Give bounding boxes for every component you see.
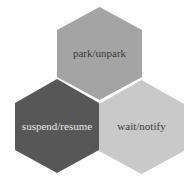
label-suspend-resume: suspend/resume: [22, 120, 92, 132]
hexagon-diagram: park/unpark suspend/resume wait/notify: [0, 0, 194, 178]
label-park-unpark: park/unpark: [73, 47, 127, 59]
label-wait-notify: wait/notify: [117, 120, 166, 132]
